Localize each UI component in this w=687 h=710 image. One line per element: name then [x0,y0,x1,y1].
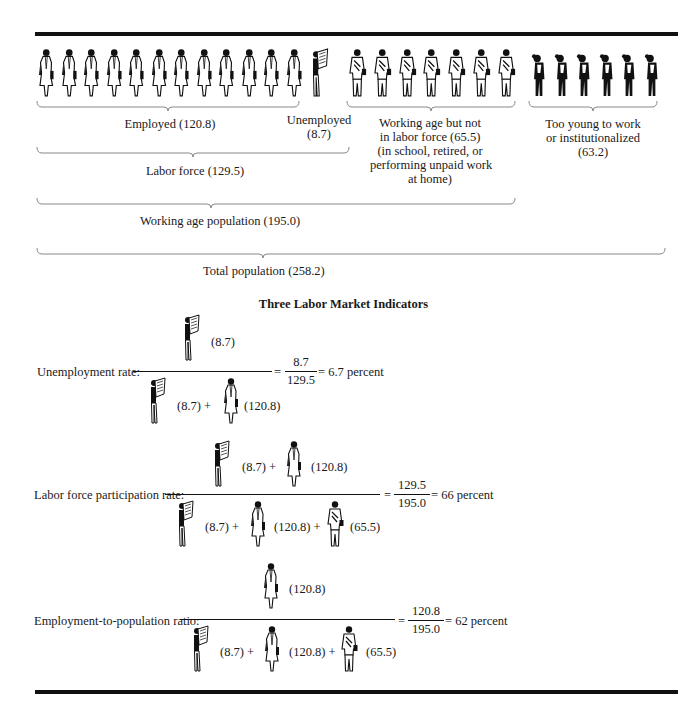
working-age-brace [36,197,516,209]
equals-sign: = [384,488,391,503]
not-in-labor-force-man-icon [470,48,493,98]
employed-woman-icon [58,48,81,98]
too-young-figures [528,48,663,98]
unemployed-man-icon [175,500,195,548]
result-text: = 6.7 percent [318,365,384,380]
not-in-labor-force-brace [346,100,516,112]
term-value: (120.8) + [289,645,336,660]
labor-force-brace [36,146,350,158]
employed-woman-icon [260,48,283,98]
nilf-line: at home) [370,172,490,186]
unemployed-man-icon [181,314,201,362]
employed-woman-icon [262,625,282,673]
numerator: 120.8 [408,604,444,619]
participation-rate-label: Labor force participation rate: [34,488,184,503]
equals-sign: = [274,365,281,380]
term-value: (120.8) [244,399,280,414]
employed-woman-icon [261,562,281,610]
fraction-bar [408,620,444,621]
not-in-labor-force-man-icon [325,500,345,548]
too-young-brace [528,100,658,112]
not-in-labor-force-man-icon [346,48,369,98]
too-young-line: (63.2) [533,145,653,159]
nilf-line: performing unpaid work [370,158,490,172]
too-young-label: Too young to work or institutionalized (… [533,117,653,159]
employed-woman-icon [193,48,216,98]
too-young-child-icon [528,48,551,98]
not-in-labor-force-man-icon [495,48,518,98]
unemployed-label-line1: Unemployed [286,113,352,127]
result-fraction: 129.5 195.0 [394,478,430,511]
employed-woman-icon [284,440,304,488]
term-value: (120.8) + [274,520,321,535]
fraction-bar [394,494,430,495]
unemployed-figures [308,48,331,98]
term-value: (8.7) + [177,399,211,414]
equals-sign: = [398,614,405,629]
numerator: 129.5 [394,478,430,493]
too-young-line: Too young to work [533,117,653,131]
total-population-brace [36,247,666,259]
term-value: (65.5) [366,645,396,660]
denominator: 129.5 [285,373,317,388]
labor-force-label: Labor force (129.5) [140,164,250,178]
employed-woman-icon [248,500,268,548]
fraction-bar [285,371,317,372]
fraction-bar [180,619,395,620]
fraction-bar [133,371,272,372]
too-young-child-icon [641,48,664,98]
not-in-labor-force-man-icon [420,48,443,98]
nilf-line: (in school, retired, or [370,144,490,158]
numerator: 8.7 [285,355,317,370]
employed-woman-icon [283,48,306,98]
too-young-child-icon [618,48,641,98]
nilf-line: Working age but not [370,116,490,130]
term-value: (120.8) [311,460,347,475]
employed-woman-icon [148,48,171,98]
bottom-rule [35,690,678,694]
working-age-label: Working age population (195.0) [140,214,282,228]
not-in-labor-force-man-icon [396,48,419,98]
total-population-label: Total population (258.2) [203,264,323,278]
too-young-line: or institutionalized [533,131,653,145]
term-value: (65.5) [350,520,380,535]
not-in-labor-force-man-icon [371,48,394,98]
denominator: 195.0 [408,622,444,637]
term-value: (8.7) [211,335,235,350]
unemployed-man-icon [147,377,167,425]
employed-woman-icon [221,377,241,425]
term-value: (8.7) + [220,645,254,660]
result-text: = 62 percent [445,614,508,629]
too-young-child-icon [596,48,619,98]
too-young-child-icon [551,48,574,98]
employed-brace [36,100,300,112]
not-in-labor-force-figures [346,48,517,98]
nilf-line: in labor force (65.5) [370,130,490,144]
unemployment-rate-label: Unemployment rate: [37,365,140,380]
unemployed-man-icon [190,625,210,673]
not-in-labor-force-man-icon [339,625,359,673]
employed-label: Employed (120.8) [120,117,220,131]
employed-woman-icon [238,48,261,98]
fraction-bar [165,494,380,495]
employment-population-ratio-label: Employment-to-population ratio: [34,614,200,629]
employed-woman-icon [215,48,238,98]
unemployed-label: Unemployed (8.7) [286,113,352,141]
employed-figures [35,48,305,98]
term-value: (120.8) [289,582,325,597]
too-young-child-icon [573,48,596,98]
term-value: (8.7) + [205,520,239,535]
employed-woman-icon [35,48,58,98]
top-rule [35,32,678,36]
indicators-title: Three Labor Market Indicators [0,297,687,312]
denominator: 195.0 [394,496,430,511]
employed-woman-icon [80,48,103,98]
unemployed-label-line2: (8.7) [286,127,352,141]
not-in-labor-force-label: Working age but not in labor force (65.5… [370,116,490,186]
result-fraction: 120.8 195.0 [408,604,444,637]
unemployed-man-icon [308,48,331,98]
result-fraction: 8.7 129.5 [285,355,317,388]
not-in-labor-force-man-icon [445,48,468,98]
unemployed-man-icon [211,440,231,488]
employed-woman-icon [170,48,193,98]
